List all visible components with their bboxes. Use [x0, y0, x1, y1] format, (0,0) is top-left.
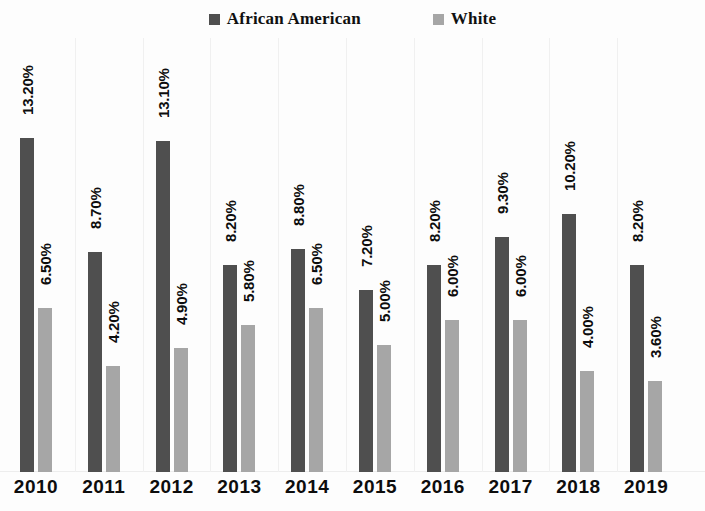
bar-2018-white: 4.00%	[580, 38, 594, 472]
x-tick-2011: 2011	[74, 476, 134, 498]
bar-value-label: 8.20%	[425, 200, 442, 242]
bar-value-label: 6.00%	[443, 255, 460, 297]
bar-group-2016: 8.20%6.00%	[427, 38, 459, 472]
bar-2016-white: 6.00%	[445, 38, 459, 472]
bar-2015-african-american: 7.20%	[359, 38, 373, 472]
bar-rect	[20, 138, 34, 472]
bar-2013-african-american: 8.20%	[223, 38, 237, 472]
bar-value-label: 4.20%	[104, 301, 121, 343]
bar-value-label: 13.20%	[19, 65, 36, 115]
bar-2019-african-american: 8.20%	[630, 38, 644, 472]
bar-rect	[88, 252, 102, 472]
bar-rect	[38, 308, 52, 472]
bar-value-label: 13.10%	[154, 68, 171, 118]
bar-rect	[106, 366, 120, 472]
bar-2010-white: 6.50%	[38, 38, 52, 472]
bar-rect	[223, 265, 237, 472]
group-separator	[75, 38, 76, 472]
x-tick-2017: 2017	[481, 476, 541, 498]
bar-rect	[562, 214, 576, 472]
group-separator	[210, 38, 211, 472]
group-separator	[346, 38, 347, 472]
bar-2016-african-american: 8.20%	[427, 38, 441, 472]
bar-rect	[291, 249, 305, 472]
group-separator	[278, 38, 279, 472]
bar-value-label: 4.90%	[172, 283, 189, 325]
legend-swatch-african-american	[209, 14, 220, 25]
bar-2011-white: 4.20%	[106, 38, 120, 472]
legend-label-white: White	[451, 9, 496, 29]
bar-value-label: 6.00%	[511, 255, 528, 297]
bar-value-label: 5.80%	[240, 260, 257, 302]
x-tick-2018: 2018	[548, 476, 608, 498]
bar-2013-white: 5.80%	[241, 38, 255, 472]
bar-group-2018: 10.20%4.00%	[562, 38, 594, 472]
bar-2015-white: 5.00%	[377, 38, 391, 472]
bar-rect	[630, 265, 644, 472]
x-tick-2012: 2012	[142, 476, 202, 498]
bar-2014-white: 6.50%	[309, 38, 323, 472]
bar-value-label: 9.30%	[493, 172, 510, 214]
bar-group-2015: 7.20%5.00%	[359, 38, 391, 472]
bar-rect	[580, 371, 594, 472]
bar-value-label: 8.80%	[290, 184, 307, 226]
legend-item-african-american: African American	[209, 9, 361, 29]
plot-area: 13.20%6.50%8.70%4.20%13.10%4.90%8.20%5.8…	[0, 38, 705, 472]
bar-rect	[445, 320, 459, 472]
bar-group-2010: 13.20%6.50%	[20, 38, 52, 472]
legend-swatch-white	[433, 14, 444, 25]
bar-2012-white: 4.90%	[174, 38, 188, 472]
bar-rect	[156, 141, 170, 472]
x-tick-2013: 2013	[209, 476, 269, 498]
bar-value-label: 3.60%	[647, 316, 664, 358]
bar-rect	[377, 345, 391, 472]
bar-2010-african-american: 13.20%	[20, 38, 34, 472]
bar-group-2019: 8.20%3.60%	[630, 38, 662, 472]
bar-2018-african-american: 10.20%	[562, 38, 576, 472]
bar-rect	[427, 265, 441, 472]
bar-rect	[648, 381, 662, 472]
x-axis-labels: 2010201120122013201420152016201720182019	[0, 474, 705, 511]
bar-rect	[174, 348, 188, 472]
bar-value-label: 10.20%	[561, 141, 578, 191]
bar-2011-african-american: 8.70%	[88, 38, 102, 472]
bar-chart: African American White 13.20%6.50%8.70%4…	[0, 0, 705, 511]
x-tick-2019: 2019	[616, 476, 676, 498]
bar-group-2014: 8.80%6.50%	[291, 38, 323, 472]
bar-group-2017: 9.30%6.00%	[495, 38, 527, 472]
bar-rect	[495, 237, 509, 472]
x-tick-2014: 2014	[277, 476, 337, 498]
bar-value-label: 4.00%	[579, 306, 596, 348]
bar-value-label: 8.20%	[629, 200, 646, 242]
bar-2017-african-american: 9.30%	[495, 38, 509, 472]
bar-rect	[309, 308, 323, 472]
bar-rect	[359, 290, 373, 472]
x-tick-2010: 2010	[6, 476, 66, 498]
group-separator	[482, 38, 483, 472]
bar-rect	[513, 320, 527, 472]
chart-legend: African American White	[0, 4, 705, 34]
bar-value-label: 8.20%	[222, 200, 239, 242]
bar-value-label: 6.50%	[37, 243, 54, 285]
bar-2012-african-american: 13.10%	[156, 38, 170, 472]
bar-2019-white: 3.60%	[648, 38, 662, 472]
group-separator	[549, 38, 550, 472]
group-separator	[617, 38, 618, 472]
bar-rect	[241, 325, 255, 472]
group-separator	[143, 38, 144, 472]
bar-value-label: 7.20%	[358, 225, 375, 267]
bar-group-2011: 8.70%4.20%	[88, 38, 120, 472]
x-tick-2016: 2016	[413, 476, 473, 498]
legend-label-african-american: African American	[227, 9, 361, 29]
legend-item-white: White	[433, 9, 496, 29]
bar-group-2012: 13.10%4.90%	[156, 38, 188, 472]
bar-value-label: 6.50%	[308, 243, 325, 285]
bar-2014-african-american: 8.80%	[291, 38, 305, 472]
bar-group-2013: 8.20%5.80%	[223, 38, 255, 472]
x-tick-2015: 2015	[345, 476, 405, 498]
bar-2017-white: 6.00%	[513, 38, 527, 472]
bar-value-label: 5.00%	[376, 280, 393, 322]
bar-value-label: 8.70%	[86, 187, 103, 229]
group-separator	[414, 38, 415, 472]
